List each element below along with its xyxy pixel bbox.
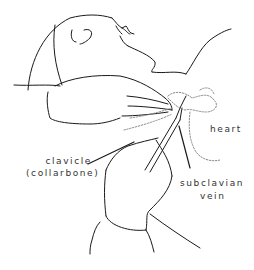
heart-label: heart bbox=[210, 124, 242, 134]
clavicle-label: clavicle bbox=[38, 156, 92, 166]
upper-hand bbox=[47, 75, 172, 124]
collarbone-label: (collarbone) bbox=[26, 168, 99, 178]
leader-lines bbox=[88, 126, 190, 168]
vein-label: vein bbox=[200, 191, 225, 201]
patient-head bbox=[14, 15, 231, 90]
medical-illustration-svg bbox=[0, 0, 254, 270]
illustration: heart clavicle (collarbone) subclavian v… bbox=[0, 0, 254, 270]
subclavian-leader bbox=[179, 126, 190, 168]
subclavian-label: subclavian bbox=[180, 178, 244, 188]
